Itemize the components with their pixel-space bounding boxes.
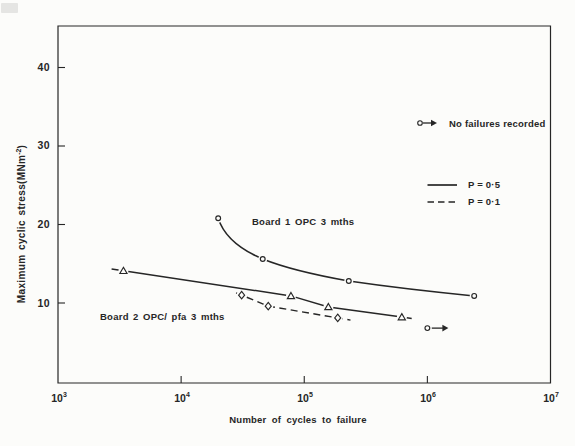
annotation-board1: Board 1 OPC 3 mths [252,216,354,227]
runout-marker-icon [412,117,438,129]
y-tick-label-40: 40 [16,61,50,73]
x-tick-label-10e7: 107 [534,391,568,404]
y-axis-label-exponent: -2 [15,148,22,154]
y-axis-label-text: Maximum cyclic stress(MNm [16,155,27,303]
x-tick-base: 10 [543,392,555,404]
x-tick-label-10e3: 103 [42,391,76,404]
x-tick-base: 10 [297,392,309,404]
circle-marker [425,326,430,331]
legend-item-no-failures: No failures recorded [412,117,545,129]
x-tick-label-10e5: 105 [288,391,322,404]
x-tick-base: 10 [420,392,432,404]
circle-marker [216,216,221,221]
dashed-line-sample-icon [427,199,458,205]
x-tick-exponent: 4 [186,391,190,398]
legend-item-p01: P = 0·1 [427,196,500,207]
circle-marker [346,279,351,284]
circle-marker [472,294,477,299]
x-axis-label: Number of cycles to failure [215,414,381,425]
x-tick-label-10e4: 104 [165,391,199,404]
y-axis-label-close: ) [16,145,27,149]
annotation-board2: Board 2 OPC/ pfa 3 mths [100,311,225,322]
legend-label: P = 0·5 [468,179,500,190]
x-tick-exponent: 3 [63,391,67,398]
x-tick-exponent: 6 [432,391,436,398]
runout-arrow-head [442,325,448,332]
legend-label: No failures recorded [449,118,545,129]
x-tick-base: 10 [51,392,63,404]
y-axis-label: Maximum cyclic stress(MNm-2) [15,145,27,303]
legend-item-p05: P = 0·5 [427,179,500,190]
solid-line-sample-icon [427,182,458,188]
x-tick-base: 10 [174,392,186,404]
x-tick-exponent: 7 [555,391,559,398]
x-tick-label-10e6: 106 [411,391,445,404]
fatigue-chart-figure: 40 30 20 10 103 104 105 106 107 Number o… [0,0,575,446]
x-tick-exponent: 5 [309,391,313,398]
legend-label: P = 0·1 [468,196,500,207]
circle-marker [260,257,265,262]
